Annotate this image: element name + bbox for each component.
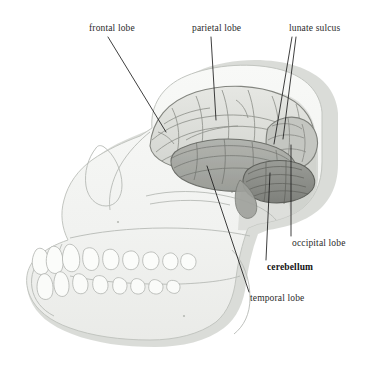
label-occipital-lobe: occipital lobe xyxy=(292,238,346,249)
label-lunate-sulcus: lunate sulcus xyxy=(289,23,340,34)
label-frontal-lobe: frontal lobe xyxy=(89,23,135,34)
label-parietal-lobe: parietal lobe xyxy=(192,23,241,34)
skull-brain-diagram xyxy=(0,0,368,370)
leader-line-frontal-lobe xyxy=(108,37,166,132)
anatomical-illustration: frontal lobe parietal lobe lunate sulcus… xyxy=(0,0,368,370)
label-temporal-lobe: temporal lobe xyxy=(250,293,304,304)
label-cerebellum: cerebellum xyxy=(267,262,313,273)
